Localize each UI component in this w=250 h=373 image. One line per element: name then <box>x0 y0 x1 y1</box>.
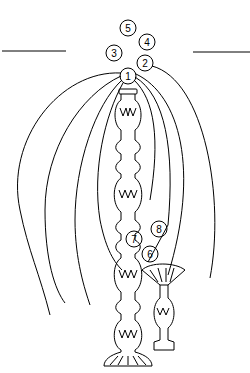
label-4: 4 <box>139 34 155 50</box>
left-arcs <box>18 73 123 315</box>
label-2: 2 <box>137 55 153 71</box>
label-5: 5 <box>120 20 136 36</box>
label-1: 1 <box>120 68 136 84</box>
svg-text:5: 5 <box>125 23 131 34</box>
label-7: 7 <box>126 231 142 247</box>
svg-text:4: 4 <box>144 37 150 48</box>
svg-text:2: 2 <box>142 58 148 69</box>
svg-text:1: 1 <box>125 71 131 82</box>
diagram-canvas: 1 2 3 4 5 6 7 8 <box>0 0 250 373</box>
label-3: 3 <box>106 45 122 61</box>
svg-text:6: 6 <box>147 249 153 260</box>
right-arcs <box>134 66 215 278</box>
short-column <box>142 264 185 350</box>
svg-text:7: 7 <box>131 234 137 245</box>
tall-column <box>104 89 152 366</box>
label-6: 6 <box>142 246 158 262</box>
svg-text:3: 3 <box>111 48 117 59</box>
label-8: 8 <box>151 221 167 237</box>
svg-text:8: 8 <box>156 224 162 235</box>
